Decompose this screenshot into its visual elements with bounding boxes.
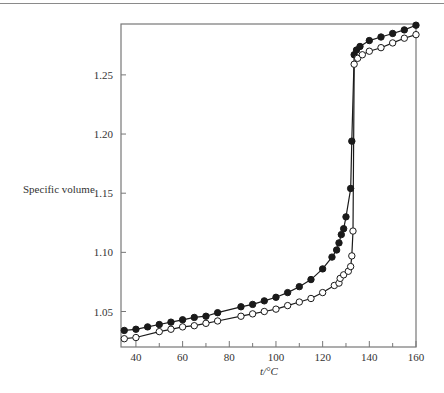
x-tick-label: 120 bbox=[314, 351, 331, 363]
data-point-filled bbox=[389, 30, 395, 36]
data-point-open bbox=[203, 320, 209, 326]
data-point-filled bbox=[214, 309, 220, 315]
data-point-open bbox=[284, 302, 290, 308]
data-point-open bbox=[359, 52, 365, 58]
data-point-filled bbox=[340, 225, 346, 231]
data-point-filled bbox=[366, 37, 372, 43]
data-point-open bbox=[168, 326, 174, 332]
x-tick-label: 140 bbox=[361, 351, 378, 363]
data-point-filled bbox=[336, 240, 342, 246]
data-point-filled bbox=[413, 22, 419, 28]
series-open bbox=[121, 31, 419, 341]
data-point-open bbox=[238, 313, 244, 319]
data-point-open bbox=[413, 31, 419, 37]
data-point-open bbox=[378, 44, 384, 50]
data-point-filled bbox=[121, 327, 127, 333]
y-tick-label: 1.05 bbox=[94, 306, 114, 318]
y-tick-label: 1.25 bbox=[94, 69, 114, 81]
data-point-open bbox=[296, 299, 302, 305]
y-tick-label: 1.15 bbox=[94, 187, 114, 199]
x-tick-label: 60 bbox=[177, 351, 189, 363]
data-point-filled bbox=[308, 276, 314, 282]
data-point-filled bbox=[168, 319, 174, 325]
data-point-filled bbox=[333, 247, 339, 253]
x-axis-ticks: 406080100120140160 bbox=[130, 341, 424, 363]
data-point-open bbox=[401, 35, 407, 41]
data-point-open bbox=[308, 295, 314, 301]
x-axis-label: t/°C bbox=[260, 365, 278, 377]
x-tick-label: 160 bbox=[408, 351, 425, 363]
data-point-filled bbox=[343, 214, 349, 220]
data-point-filled bbox=[261, 298, 267, 304]
x-tick-label: 100 bbox=[268, 351, 285, 363]
data-point-filled bbox=[249, 301, 255, 307]
y-axis-label: Specific volume bbox=[23, 183, 95, 195]
data-point-open bbox=[191, 323, 197, 329]
data-point-filled bbox=[296, 283, 302, 289]
data-point-open bbox=[249, 311, 255, 317]
data-point-open bbox=[179, 324, 185, 330]
y-tick-label: 1.20 bbox=[94, 128, 114, 140]
data-point-filled bbox=[329, 254, 335, 260]
data-point-filled bbox=[357, 43, 363, 49]
data-point-filled bbox=[179, 317, 185, 323]
data-point-open bbox=[261, 308, 267, 314]
data-point-open bbox=[351, 61, 357, 67]
data-point-filled bbox=[401, 27, 407, 33]
data-point-filled bbox=[203, 313, 209, 319]
data-point-open bbox=[366, 48, 372, 54]
data-point-open bbox=[347, 263, 353, 269]
data-point-filled bbox=[133, 326, 139, 332]
data-point-open bbox=[349, 253, 355, 259]
data-point-filled bbox=[273, 294, 279, 300]
chart-plot: 1.051.101.151.201.25406080100120140160 bbox=[0, 0, 444, 393]
data-point-filled bbox=[238, 304, 244, 310]
data-point-filled bbox=[284, 289, 290, 295]
x-tick-label: 80 bbox=[224, 351, 236, 363]
plot-frame bbox=[121, 24, 416, 347]
x-tick-label: 40 bbox=[130, 351, 142, 363]
y-tick-label: 1.10 bbox=[94, 246, 114, 258]
data-point-open bbox=[273, 306, 279, 312]
x-axis-label-text: t/°C bbox=[260, 365, 278, 377]
data-point-open bbox=[214, 318, 220, 324]
data-point-open bbox=[350, 228, 356, 234]
series-filled bbox=[121, 22, 419, 334]
data-point-filled bbox=[156, 321, 162, 327]
data-point-open bbox=[389, 40, 395, 46]
data-point-filled bbox=[319, 266, 325, 272]
data-point-open bbox=[319, 289, 325, 295]
data-point-open bbox=[121, 336, 127, 342]
data-point-filled bbox=[191, 314, 197, 320]
data-point-open bbox=[133, 334, 139, 340]
data-point-open bbox=[156, 328, 162, 334]
data-point-filled bbox=[378, 34, 384, 40]
data-point-filled bbox=[144, 324, 150, 330]
